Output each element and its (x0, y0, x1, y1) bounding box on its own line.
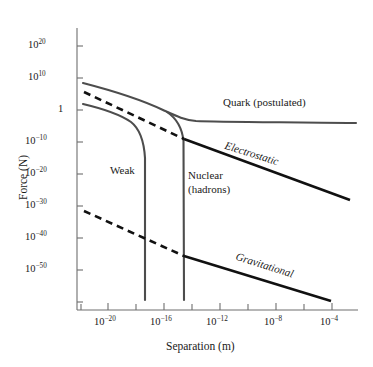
x-tick-label-0: 10−20 (94, 316, 116, 328)
y-tick-label-0: 1020 (28, 39, 46, 51)
x-axis-title: Separation (m) (166, 340, 235, 353)
curve-nuclear (167, 112, 184, 300)
x-tick-label-2: 10−12 (206, 316, 228, 328)
x-tick-label-3: 10−8 (264, 316, 282, 328)
curve-label-weak: Weak (110, 164, 135, 177)
y-tick-label-5: 10−30 (25, 199, 47, 211)
curve-label-nuclear-line2: (hadrons) (188, 183, 230, 196)
y-axis-title: Force (N) (17, 155, 30, 200)
y-tick-label-2: 1 (58, 103, 63, 115)
x-tick-label-1: 10−16 (150, 316, 172, 328)
x-tick-label-4: 10−4 (320, 316, 338, 328)
curve-label-nuclear-line1: Nuclear (188, 169, 223, 182)
force-vs-separation-figure: 1020 1010 1 10−10 10−20 10−30 10−40 10−5… (0, 0, 373, 367)
curve-gravitational-dashed (84, 211, 184, 256)
curve-weak (83, 104, 145, 300)
plot-canvas (0, 0, 373, 367)
x-axis-ticks (81, 303, 332, 310)
y-tick-label-6: 10−40 (25, 231, 47, 243)
y-axis-ticks (77, 46, 83, 302)
curve-label-quark: Quark (postulated) (223, 96, 306, 109)
y-tick-label-1: 1010 (28, 71, 46, 83)
y-tick-label-3: 10−10 (25, 135, 47, 147)
y-tick-label-7: 10−50 (25, 263, 47, 275)
